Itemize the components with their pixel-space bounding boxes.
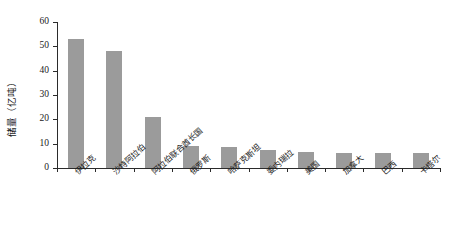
y-tick-mark bbox=[53, 144, 58, 145]
y-tick-mark bbox=[53, 22, 58, 23]
y-tick-label: 40 bbox=[23, 64, 49, 77]
y-tick-mark bbox=[53, 119, 58, 120]
y-tick-label: 50 bbox=[23, 39, 49, 52]
plot-area: 0102030405060 bbox=[57, 22, 440, 168]
y-tick-mark bbox=[53, 46, 58, 47]
bar bbox=[68, 39, 84, 168]
bar bbox=[106, 51, 122, 168]
bar-chart: 储量（亿吨） 0102030405060 伊拉克沙特阿拉伯阿拉伯联合酋长国俄罗斯… bbox=[0, 0, 466, 241]
y-tick-mark bbox=[53, 71, 58, 72]
y-axis-title: 储量（亿吨） bbox=[4, 52, 18, 162]
y-tick-label: 60 bbox=[23, 15, 49, 28]
y-tick-label: 10 bbox=[23, 137, 49, 150]
bar bbox=[145, 117, 161, 168]
y-tick-label: 20 bbox=[23, 112, 49, 125]
y-tick-label: 30 bbox=[23, 88, 49, 101]
x-axis-labels: 伊拉克沙特阿拉伯阿拉伯联合酋长国俄罗斯哈萨克斯坦委内瑞拉美国加拿大巴西卡塔尔 bbox=[57, 170, 457, 241]
y-tick-mark bbox=[53, 95, 58, 96]
y-tick-label: 0 bbox=[23, 161, 49, 174]
